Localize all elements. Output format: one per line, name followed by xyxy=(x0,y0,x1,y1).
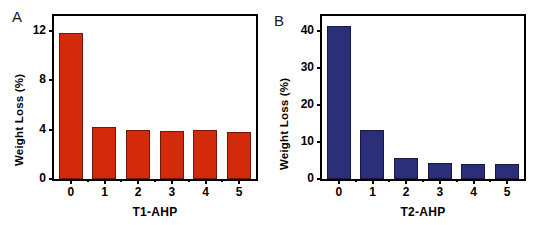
y-tick-label: 12 xyxy=(33,23,46,38)
x-tick-mark-icon xyxy=(137,179,139,184)
y-tick-mark-icon xyxy=(317,141,322,143)
y-tick-mark-icon xyxy=(317,104,322,106)
panel-label-a: A xyxy=(12,8,22,25)
plot-area-b: 010203040012345 xyxy=(320,14,526,181)
x-tick-mark-icon xyxy=(439,179,441,184)
x-minor-tick-mark-icon xyxy=(120,179,122,182)
bar-a-0 xyxy=(59,33,83,179)
x-minor-tick-mark-icon xyxy=(388,179,390,182)
x-tick-mark-icon xyxy=(506,179,508,184)
x-minor-tick-mark-icon xyxy=(188,179,190,182)
y-tick-label: 4 xyxy=(39,122,46,137)
x-minor-tick-mark-icon xyxy=(154,179,156,182)
x-tick-mark-icon xyxy=(171,179,173,184)
x-tick-mark-icon xyxy=(372,179,374,184)
x-minor-tick-mark-icon xyxy=(456,179,458,182)
bar-series-a xyxy=(54,16,256,179)
x-axis-title-a: T1-AHP xyxy=(52,205,258,219)
y-tick-mark-icon xyxy=(49,129,54,131)
bar-series-b xyxy=(322,16,524,179)
x-tick-mark-icon xyxy=(338,179,340,184)
x-tick-mark-icon xyxy=(405,179,407,184)
y-tick-label: 30 xyxy=(301,60,314,75)
x-tick-label: 4 xyxy=(462,185,486,199)
x-tick-mark-icon xyxy=(473,179,475,184)
bar-b-3 xyxy=(428,163,452,179)
x-minor-tick-mark-icon xyxy=(489,179,491,182)
chart-panel-a: A Weight Loss (%) 04812012345 T1-AHP xyxy=(0,0,268,225)
bar-b-2 xyxy=(394,158,418,179)
panel-label-b: B xyxy=(274,12,284,29)
x-tick-label: 0 xyxy=(327,185,351,199)
y-tick-mark-icon xyxy=(49,178,54,180)
x-tick-label: 3 xyxy=(428,185,452,199)
x-tick-mark-icon xyxy=(104,179,106,184)
bar-b-5 xyxy=(495,164,519,179)
x-tick-label: 5 xyxy=(495,185,519,199)
bar-b-4 xyxy=(461,164,485,179)
figure-two-panel-bar-charts: A Weight Loss (%) 04812012345 T1-AHP B W… xyxy=(0,0,536,225)
plot-area-a: 04812012345 xyxy=(52,14,258,181)
x-tick-label: 1 xyxy=(93,185,117,199)
x-minor-tick-mark-icon xyxy=(221,179,223,182)
y-tick-label: 10 xyxy=(301,134,314,149)
x-axis-title-b: T2-AHP xyxy=(320,205,526,219)
x-tick-label: 0 xyxy=(59,185,83,199)
y-tick-label: 20 xyxy=(301,97,314,112)
x-tick-label: 1 xyxy=(361,185,385,199)
y-tick-mark-icon xyxy=(317,67,322,69)
bar-a-4 xyxy=(193,130,217,179)
y-axis-title-b: Weight Loss (%) xyxy=(278,78,290,170)
bar-a-1 xyxy=(92,127,116,179)
y-tick-label: 8 xyxy=(39,72,46,87)
y-tick-label: 40 xyxy=(301,23,314,38)
bar-a-2 xyxy=(126,130,150,179)
x-tick-label: 5 xyxy=(227,185,251,199)
bar-b-0 xyxy=(327,26,351,179)
x-minor-tick-mark-icon xyxy=(422,179,424,182)
x-tick-label: 2 xyxy=(126,185,150,199)
x-tick-label: 2 xyxy=(394,185,418,199)
y-tick-mark-icon xyxy=(317,178,322,180)
bar-a-5 xyxy=(227,132,251,179)
y-tick-label: 0 xyxy=(39,171,46,186)
x-tick-mark-icon xyxy=(70,179,72,184)
chart-panel-b: B Weight Loss (%) 010203040012345 T2-AHP xyxy=(268,0,536,225)
x-tick-mark-icon xyxy=(205,179,207,184)
x-tick-label: 4 xyxy=(194,185,218,199)
bar-a-3 xyxy=(160,131,184,179)
y-tick-mark-icon xyxy=(317,30,322,32)
y-tick-mark-icon xyxy=(49,30,54,32)
bar-b-1 xyxy=(360,130,384,179)
x-tick-label: 3 xyxy=(160,185,184,199)
x-minor-tick-mark-icon xyxy=(355,179,357,182)
x-minor-tick-mark-icon xyxy=(87,179,89,182)
y-tick-label: 0 xyxy=(307,171,314,186)
x-tick-mark-icon xyxy=(238,179,240,184)
y-axis-title-a: Weight Loss (%) xyxy=(13,74,25,166)
y-tick-mark-icon xyxy=(49,79,54,81)
